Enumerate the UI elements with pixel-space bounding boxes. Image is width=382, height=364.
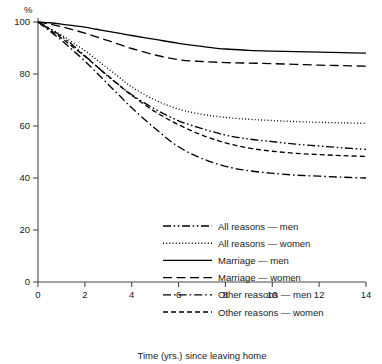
y-tick-label: 0 <box>25 276 30 287</box>
legend-label: Other reasons — women <box>218 307 324 318</box>
y-tick-label: 80 <box>19 68 30 79</box>
legend-label: Marriage — men <box>218 255 289 266</box>
chart-background <box>0 0 382 364</box>
y-tick-label: 40 <box>19 172 30 183</box>
legend-label: All reasons — men <box>218 221 298 232</box>
chart-figure: % 020406080100 02468101214 All reasons —… <box>0 0 382 364</box>
x-tick-label: 0 <box>35 289 40 300</box>
y-tick-label: 100 <box>14 16 30 27</box>
x-tick-label: 14 <box>361 289 372 300</box>
x-tick-label: 2 <box>82 289 87 300</box>
x-tick-label: 4 <box>129 289 134 300</box>
y-tick-label: 60 <box>19 120 30 131</box>
legend-label: All reasons — women <box>218 238 310 249</box>
survival-curves-chart: % 020406080100 02468101214 All reasons —… <box>0 0 382 364</box>
x-axis-title: Time (yrs.) since leaving home <box>138 350 267 361</box>
legend-label: Marriage — women <box>218 272 301 283</box>
y-tick-label: 20 <box>19 224 30 235</box>
x-tick-label: 12 <box>314 289 325 300</box>
legend-label: Other reasons — men <box>218 289 311 300</box>
y-axis-unit-label: % <box>24 4 33 15</box>
